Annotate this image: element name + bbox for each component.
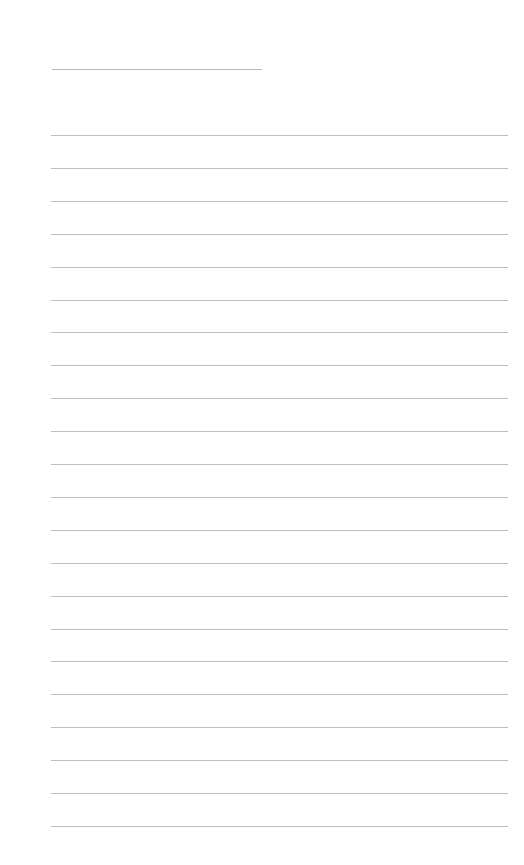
ruled-line [51, 234, 508, 235]
ruled-line [51, 431, 508, 432]
ruled-line [51, 661, 508, 662]
ruled-line [51, 332, 508, 333]
ruled-line [51, 398, 508, 399]
ruled-line [51, 300, 508, 301]
ruled-line [51, 497, 508, 498]
ruled-line [51, 760, 508, 761]
ruled-line [51, 201, 508, 202]
ruled-line [51, 530, 508, 531]
lined-page [0, 0, 524, 865]
ruled-line [51, 694, 508, 695]
ruled-line [51, 727, 508, 728]
ruled-line [51, 629, 508, 630]
ruled-line [51, 168, 508, 169]
ruled-line [51, 464, 508, 465]
ruled-line [51, 793, 508, 794]
ruled-line [51, 596, 508, 597]
ruled-line [51, 826, 508, 827]
ruled-line [51, 267, 508, 268]
title-line [52, 69, 262, 70]
ruled-line [51, 563, 508, 564]
ruled-line [51, 365, 508, 366]
ruled-line [51, 135, 508, 136]
